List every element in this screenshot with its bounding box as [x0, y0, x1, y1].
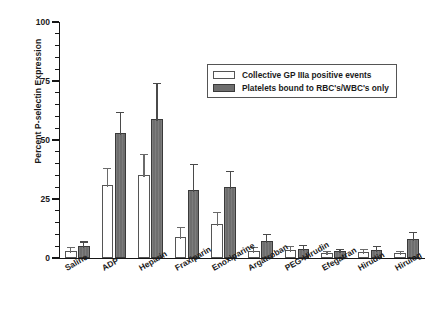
legend-label-platelets: Platelets bound to RBC's/WBC's only: [242, 83, 389, 93]
error-bar-cap: [396, 251, 404, 252]
y-tick-label: 75: [41, 76, 50, 86]
y-tick-label: 100: [36, 17, 50, 27]
y-tick-major: [52, 257, 59, 258]
y-tick-label: 25: [41, 194, 50, 204]
plot-area: 0255075100: [59, 22, 425, 258]
y-tick-major: [52, 198, 59, 199]
y-tick-label: 50: [41, 135, 50, 145]
legend-swatch-filled: [213, 84, 235, 92]
y-tick-major: [52, 139, 59, 140]
legend-label-collective: Collective GP IIIa positive events: [242, 70, 371, 80]
legend-item-collective: Collective GP IIIa positive events: [213, 69, 389, 80]
legend-swatch-open: [213, 71, 235, 79]
y-axis-title: Percent P-selectin Expression: [33, 1, 43, 201]
chart-legend: Collective GP IIIa positive events Plate…: [207, 64, 397, 98]
y-tick-label: 0: [45, 253, 50, 263]
bar-chart-figure: Percent P-selectin Expression 0255075100…: [0, 0, 432, 324]
legend-item-platelets: Platelets bound to RBC's/WBC's only: [213, 82, 389, 93]
bar-group: [59, 22, 425, 258]
error-bar-stem: [413, 232, 414, 241]
y-tick-major: [52, 80, 59, 81]
error-bar-cap: [409, 232, 417, 233]
y-tick-major: [52, 21, 59, 22]
